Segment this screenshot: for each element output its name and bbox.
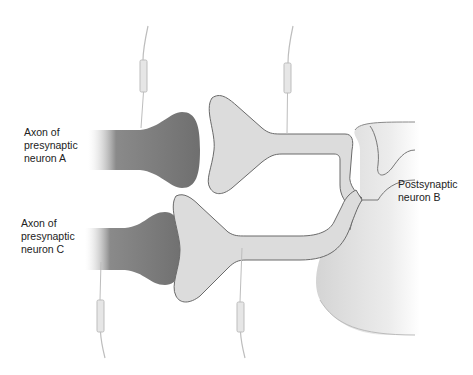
electrode-axon-c — [97, 262, 105, 358]
label-axon-c: Axon of presynaptic neuron C — [21, 217, 75, 256]
axon-c — [85, 212, 185, 285]
electrode-interneuron-bottom — [237, 248, 245, 358]
label-postsynaptic-neuron-b: Postsynaptic neuron B — [398, 178, 458, 204]
electrode-axon-a — [140, 26, 148, 128]
label-axon-a: Axon of presynaptic neuron A — [24, 126, 78, 165]
interneuron-upper — [208, 96, 362, 210]
axon-a — [88, 112, 200, 188]
electrode-interneuron-top — [284, 26, 293, 134]
